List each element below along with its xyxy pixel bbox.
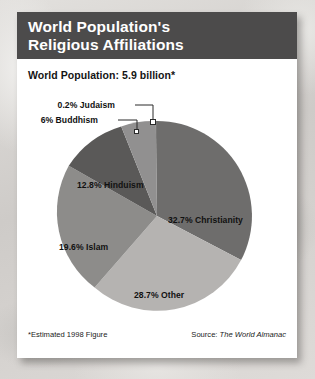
- pie-label-other: 28.7% Other: [134, 290, 184, 300]
- source-prefix: Source:: [191, 330, 219, 339]
- pie-label-buddhism: 6% Buddhism: [41, 115, 98, 125]
- leader-endpoint-judaism: [151, 120, 156, 125]
- source-name: The World Almanac: [220, 330, 286, 339]
- pie-label-hinduism: 12.8% Hinduism: [77, 180, 144, 190]
- pie-label-christianity: 32.7% Christianity: [168, 215, 243, 225]
- source-credit: Source: The World Almanac: [191, 330, 286, 339]
- footnote: *Estimated 1998 Figure: [28, 330, 107, 339]
- pie-label-judaism: 0.2% Judaism: [58, 100, 115, 110]
- pie-chart: [17, 12, 297, 358]
- infographic-card: World Population's Religious Affiliation…: [17, 12, 297, 358]
- leader-endpoint-buddhism: [135, 130, 139, 134]
- pie-label-islam: 19.6% Islam: [59, 242, 108, 252]
